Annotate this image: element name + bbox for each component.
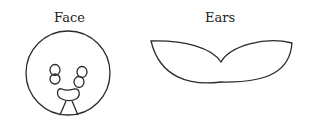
face-outline bbox=[26, 31, 110, 115]
nose bbox=[58, 89, 80, 101]
right-eye bbox=[74, 67, 87, 88]
ears-outline bbox=[151, 41, 292, 83]
diagram-canvas bbox=[0, 0, 310, 131]
left-eye bbox=[50, 65, 60, 85]
face-drawing bbox=[26, 31, 110, 115]
ears-drawing bbox=[151, 41, 292, 83]
mouth bbox=[60, 101, 78, 115]
